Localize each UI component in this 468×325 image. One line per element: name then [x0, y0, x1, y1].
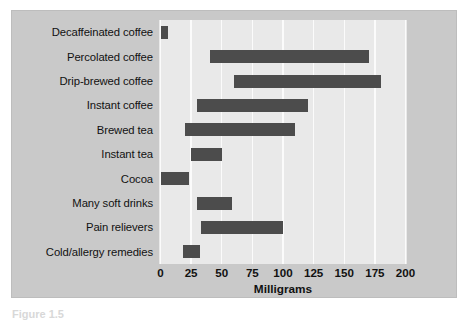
category-label: Decaffeinated coffee [52, 25, 153, 39]
category-label: Drip-brewed coffee [60, 74, 153, 88]
bar [185, 123, 295, 136]
x-tick-label: 100 [273, 266, 292, 279]
bar [161, 26, 168, 39]
category-label-column: Decaffeinated coffeePercolated coffeeDri… [11, 20, 159, 264]
x-axis-tick-labels: 0255075100125150175200 [159, 266, 407, 282]
x-tick-label: 0 [157, 266, 163, 279]
bar [234, 75, 381, 88]
gridline [405, 20, 406, 264]
x-tick-label: 125 [304, 266, 323, 279]
category-label: Cocoa [121, 172, 153, 186]
category-label: Instant tea [101, 147, 153, 161]
category-label: Pain relievers [86, 220, 153, 234]
bar [210, 50, 369, 63]
bar [197, 197, 231, 210]
bar [183, 245, 200, 258]
gridline [374, 20, 375, 264]
bar [197, 99, 307, 112]
category-label: Many soft drinks [72, 196, 153, 210]
x-axis-title: Milligrams [159, 282, 407, 296]
x-tick-label: 150 [335, 266, 354, 279]
category-label: Brewed tea [97, 123, 153, 137]
plot-area [159, 20, 407, 264]
chart-panel: Decaffeinated coffeePercolated coffeeDri… [11, 10, 457, 298]
gridline [190, 20, 191, 264]
bar [191, 148, 222, 161]
figure-container: Decaffeinated coffeePercolated coffeeDri… [0, 0, 468, 325]
x-tick-label: 200 [396, 266, 415, 279]
x-tick-label: 50 [215, 266, 228, 279]
category-label: Percolated coffee [67, 50, 153, 64]
x-tick-label: 175 [365, 266, 384, 279]
bar [201, 221, 283, 234]
bar [161, 172, 189, 185]
x-tick-label: 25 [185, 266, 198, 279]
x-tick-label: 75 [246, 266, 259, 279]
figure-caption: Figure 1.5 [12, 308, 64, 320]
category-label: Instant coffee [87, 98, 153, 112]
gridline [160, 20, 161, 264]
category-label: Cold/allergy remedies [46, 245, 153, 259]
